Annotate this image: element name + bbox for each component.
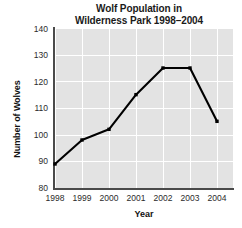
plot-wrapper [55,28,233,188]
x-tick-label: 2001 [121,193,151,203]
chart-title: Wolf Population in Wilderness Park 1998–… [40,3,238,26]
x-tick-label: 2004 [202,193,232,203]
x-tick-label: 2003 [175,193,205,203]
x-tick-label: 1998 [40,193,70,203]
data-point [53,162,56,165]
data-series-wolf-population [55,28,233,188]
x-tick-label: 1999 [67,193,97,203]
wolf-population-line-chart: Wolf Population in Wilderness Park 1998–… [0,0,242,228]
y-tick-label: 110 [18,103,48,113]
y-tick-label: 120 [18,77,48,87]
y-tick-label: 90 [18,156,48,166]
series-line [55,68,217,164]
x-axis-line [53,188,234,190]
data-point [80,138,83,141]
data-point [161,66,164,69]
data-point [188,66,191,69]
x-tick-label: 2002 [148,193,178,203]
data-point [215,120,218,123]
x-tick-label: 2000 [94,193,124,203]
chart-title-line-2: Wilderness Park 1998–2004 [40,15,238,27]
x-axis-title: Year [55,209,233,219]
chart-title-line-1: Wolf Population in [40,3,238,15]
y-tick-label: 100 [18,130,48,140]
y-tick-label: 80 [18,183,48,193]
series-markers [53,66,218,165]
data-point [134,93,137,96]
y-tick-label: 130 [18,50,48,60]
data-point [107,128,110,131]
y-tick-label: 140 [18,24,48,34]
